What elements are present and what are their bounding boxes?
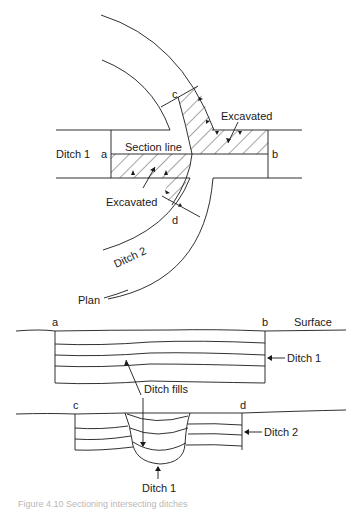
ditch2-plan-label: Ditch 2 [112,244,148,269]
ditch1-section-label: Ditch 1 [287,352,321,364]
ditch2-base-right [186,445,242,446]
ditch2-inner-edge-upper [102,60,170,130]
surface-label: Surface [294,316,332,328]
figure-caption: Figure 4.10 Sectioning intersecting ditc… [18,499,188,509]
plan-title: Plan [78,294,100,306]
section-point-c: c [73,399,79,411]
arrowhead-icon [124,360,129,366]
point-c-label: c [172,88,178,100]
ditch1-fill-layer-1 [127,414,188,421]
fill-layer-2 [55,353,265,356]
ditch2-section-label: Ditch 2 [264,426,298,438]
fill-layer-3 [55,364,265,367]
point-a-label: a [101,148,108,160]
excavated-lower-label: Excavated [106,196,157,208]
ditch-section-diagram: Ditch 1 a b c d Section line Excavated E… [0,0,361,510]
section-point-b: b [262,316,268,328]
arrowhead-icon [244,429,249,435]
arrowhead-icon [155,466,161,471]
section-point-a: a [52,316,59,328]
ditch2-layer-2-right [188,434,242,435]
section-cd: c d Ditch 2 Ditch 1 [16,398,346,494]
plan-view: Ditch 1 a b c d Section line Excavated E… [56,15,302,306]
ditch1-fill-layer-2 [130,428,188,434]
section-point-d: d [240,399,246,411]
ditch2-layer-2-left [75,436,131,440]
ditch1-plan-label: Ditch 1 [56,148,90,160]
excavated-upper-label: Excavated [221,110,272,122]
point-d-label: d [172,214,178,226]
surface-line-cd [16,410,346,414]
ditch1-cut-label: Ditch 1 [142,482,176,494]
ditch2-layer-1-right [188,424,242,425]
section-line-label: Section line [125,141,182,153]
fill-layer-1 [55,341,265,344]
ditch2-base-left [75,447,133,450]
surface-line-ab [16,330,346,331]
ditch-fills-label: Ditch fills [144,383,189,395]
ditch2-layer-1-left [75,426,128,429]
point-b-label: b [272,148,278,160]
arrowhead-icon [267,355,272,361]
section-ab: a b Surface Ditch 1 Ditch fills [16,316,346,395]
